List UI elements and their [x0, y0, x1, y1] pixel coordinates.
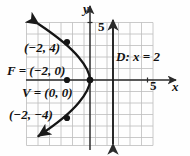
parabola-figure: (−2, 4) F = (−2, 0) V = (0, 0) (−2, −4) …	[0, 0, 190, 156]
label-point-upper: (−2, 4)	[24, 41, 60, 54]
label-axis-y: y	[83, 2, 89, 15]
label-vertex: V = (0, 0)	[22, 86, 73, 99]
label-tick-y: 5	[98, 20, 105, 33]
label-tick-x: 5	[150, 79, 157, 92]
graph-canvas	[0, 0, 190, 156]
point-lower-dot	[64, 115, 70, 121]
label-axis-x: x	[172, 80, 179, 93]
label-point-lower: (−2, −4)	[9, 108, 53, 121]
vertex-dot	[87, 77, 94, 84]
label-directrix: D: x = 2	[116, 50, 160, 63]
point-upper-dot	[64, 39, 70, 45]
label-focus: F = (−2, 0)	[7, 64, 65, 77]
